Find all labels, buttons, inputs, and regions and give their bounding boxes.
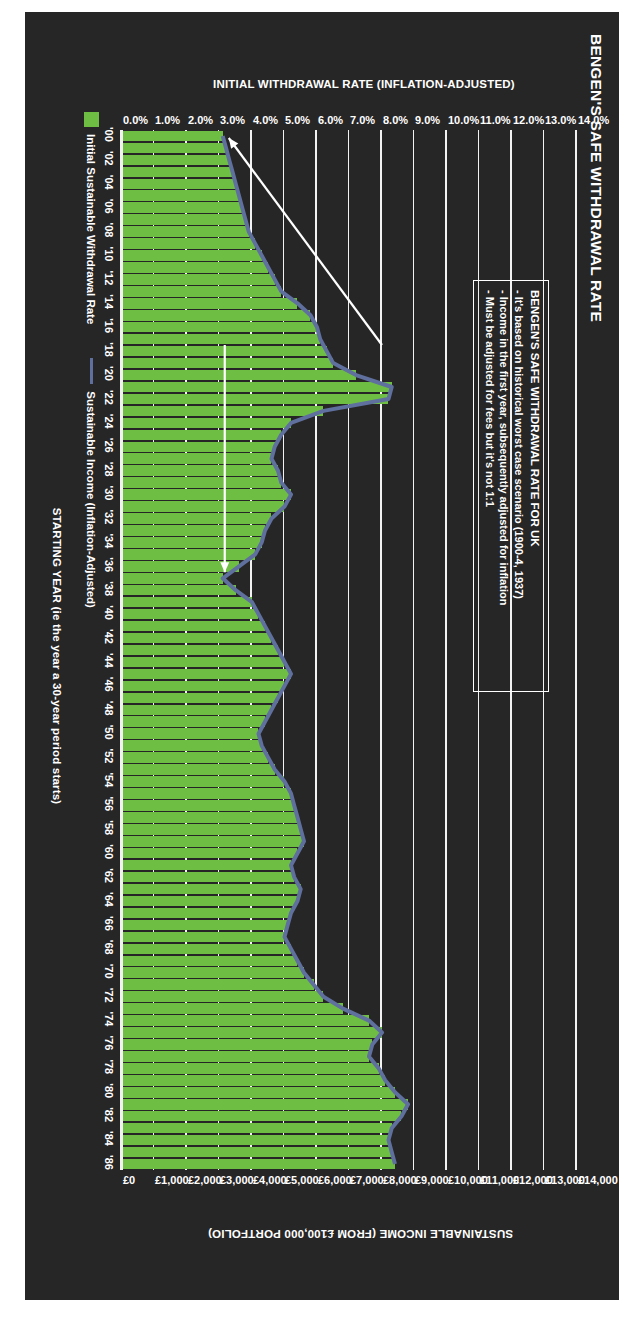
bar [122, 920, 288, 931]
x-tick-label: '06 [103, 199, 115, 214]
x-tick-label: '38 [103, 581, 115, 596]
gridline [446, 130, 448, 1170]
gridline [413, 130, 415, 1170]
x-tick-label: '56 [103, 796, 115, 811]
x-tick-label: '46 [103, 677, 115, 692]
bar [122, 489, 291, 500]
legend-label-line: Sustainable Income (Inflation-Adjusted) [86, 391, 98, 608]
bar [122, 669, 291, 680]
bar [122, 1075, 385, 1086]
bar [122, 1063, 379, 1074]
x-tick-label: '26 [103, 438, 115, 453]
x-tick-label: '70 [103, 964, 115, 979]
gridline [316, 130, 318, 1170]
x-tick-label: '72 [103, 988, 115, 1003]
x-tick-label: '10 [103, 247, 115, 262]
bar [122, 944, 291, 955]
bar [122, 370, 356, 381]
x-tick-label: '58 [103, 820, 115, 835]
bar [122, 238, 255, 249]
bar [122, 298, 298, 309]
x-tick-label: '30 [103, 486, 115, 501]
bar [122, 693, 278, 704]
x-tick-label: '78 [103, 1059, 115, 1074]
bar [122, 406, 324, 417]
bar [122, 764, 275, 775]
bar [122, 609, 259, 620]
x-tick-label: '32 [103, 510, 115, 525]
bar [122, 1135, 389, 1146]
x-tick-label: '36 [103, 557, 115, 572]
bar [122, 1147, 392, 1158]
bar [122, 155, 229, 166]
bar [122, 358, 333, 369]
bar [122, 716, 265, 727]
x-tick-label: '50 [103, 725, 115, 740]
legend-item-bars: Initial Sustainable Withdrawal Rate [84, 112, 99, 324]
x-tick-label: '86 [103, 1155, 115, 1170]
x-tick-label: '14 [103, 294, 115, 309]
bar [122, 430, 281, 441]
bar [122, 896, 298, 907]
callout-bullet-1: - It's based on historical worst case sc… [511, 290, 526, 682]
bar [122, 705, 272, 716]
axis-baseline [122, 130, 124, 1170]
bar [122, 860, 291, 871]
bar [122, 979, 314, 990]
figure: BENGEN'S SAFE WITHDRAWAL RATE INITIAL WI… [25, 12, 619, 1300]
bar [122, 274, 275, 285]
bar [122, 585, 236, 596]
legend: Initial Sustainable Withdrawal Rate Sust… [84, 112, 99, 608]
bar [122, 824, 301, 835]
rotated-figure-wrapper: BENGEN'S SAFE WITHDRAWAL RATE INITIAL WI… [25, 12, 619, 1300]
x-tick-label: '64 [103, 892, 115, 907]
x-tick-label: '44 [103, 653, 115, 668]
x-tick-label: '80 [103, 1083, 115, 1098]
x-tick-label: '40 [103, 605, 115, 620]
green-swatch-icon [84, 112, 99, 127]
x-tick-label: '62 [103, 868, 115, 883]
blue-line-icon [90, 358, 94, 384]
x-tick-label: '04 [103, 175, 115, 190]
gridline [576, 130, 578, 1170]
x-tick-label: '34 [103, 533, 115, 548]
bar [122, 884, 301, 895]
bar [122, 1027, 382, 1038]
bar [122, 442, 275, 453]
bar [122, 657, 285, 668]
bar [122, 167, 233, 178]
bar [122, 573, 223, 584]
bar [122, 465, 278, 476]
x-tick-label: '84 [103, 1131, 115, 1146]
bar [122, 143, 226, 154]
bar [122, 477, 281, 488]
bar [122, 597, 252, 608]
bar [122, 202, 242, 213]
bar [122, 549, 255, 560]
bar [122, 310, 311, 321]
bar [122, 645, 278, 656]
x-tick-label: '82 [103, 1107, 115, 1122]
bar [122, 525, 265, 536]
callout-heading: BENGEN'S SAFE WITHDRAWAL RATE FOR UK [529, 290, 541, 682]
x-tick-label: '22 [103, 390, 115, 405]
bar [122, 214, 246, 225]
bar [122, 322, 317, 333]
bar [122, 561, 239, 572]
bar [122, 776, 285, 787]
bar [122, 453, 272, 464]
bar [122, 1111, 402, 1122]
bar [122, 394, 389, 405]
bar [122, 681, 285, 692]
x-tick-label: '42 [103, 629, 115, 644]
callout-box: BENGEN'S SAFE WITHDRAWAL RATE FOR UK - I… [473, 280, 549, 692]
legend-item-line: Sustainable Income (Inflation-Adjusted) [86, 358, 98, 608]
x-tick-label: '12 [103, 270, 115, 285]
bar [122, 621, 265, 632]
x-tick-label: '54 [103, 772, 115, 787]
x-tick-label: '76 [103, 1035, 115, 1050]
bar [122, 334, 320, 345]
bar [122, 800, 294, 811]
x-tick-label: '28 [103, 462, 115, 477]
bar [122, 418, 291, 429]
